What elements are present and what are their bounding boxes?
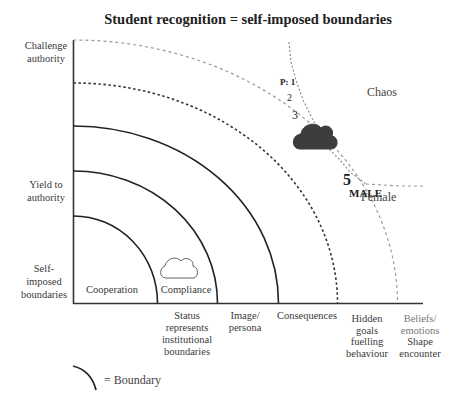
x-label-status: Status represents institutional boundari… [162,310,212,357]
svg-text:boundaries: boundaries [21,289,67,300]
trajectory-line [289,42,366,184]
svg-text:boundaries: boundaries [164,346,210,357]
zone-compliance: Compliance [161,284,212,295]
diagram-title: Student recognition = self-imposed bound… [104,11,392,27]
x-label-hidden-goals: Hidden goals fuelling behaviour [346,313,388,359]
boundary-diagram: Student recognition = self-imposed bound… [0,0,450,410]
x-label-image-persona: Image/ persona [229,310,262,333]
svg-text:Shape: Shape [407,336,433,347]
svg-text:Image/: Image/ [230,310,259,321]
svg-text:Self-: Self- [34,263,55,274]
svg-text:authority: authority [27,53,66,64]
svg-text:imposed: imposed [26,276,62,287]
svg-text:authority: authority [27,192,66,203]
zone-cooperation: Cooperation [86,284,139,295]
svg-text:Consequences: Consequences [277,310,337,321]
svg-text:Challenge: Challenge [25,40,68,51]
legend-boundary-arc-icon [73,366,96,390]
svg-text:Yield to: Yield to [29,179,63,190]
y-label-self-imposed-boundaries: Self- imposed boundaries [21,263,67,300]
male-line [366,184,425,186]
svg-text:institutional: institutional [162,334,212,345]
boundary-arc-3 [74,126,279,303]
svg-text:Hidden: Hidden [352,313,384,324]
y-label-yield-to-authority: Yield to authority [27,179,66,203]
svg-text:persona: persona [229,322,262,333]
dark-cloud-icon [293,124,337,149]
svg-text:Beliefs/: Beliefs/ [404,313,437,324]
svg-text:represents: represents [166,322,209,333]
svg-text:fuelling: fuelling [351,336,384,347]
point-5: 5 [343,171,351,188]
point-3: 3 [292,108,298,122]
label-female: Female [361,190,396,204]
point-2: 2 [287,92,292,103]
legend-label: = Boundary [104,373,161,387]
svg-text:goals: goals [356,325,378,336]
svg-text:emotions: emotions [401,325,440,336]
y-label-challenge-authority: Challenge authority [25,40,68,64]
svg-text:behaviour: behaviour [346,348,388,359]
x-label-beliefs-emotions: Beliefs/ emotions Shape encounter [399,313,441,359]
point-p1: P: 1 [280,77,296,87]
zone-chaos: Chaos [367,85,397,99]
svg-text:Status: Status [174,310,200,321]
x-label-consequences: Consequences [277,310,337,321]
svg-text:encounter: encounter [399,348,441,359]
outline-cloud-icon [161,258,198,278]
